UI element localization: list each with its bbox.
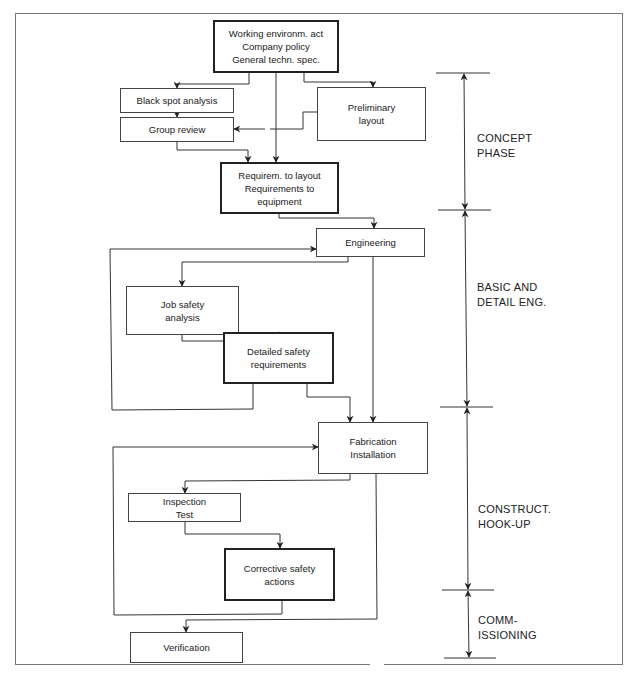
- phase-construct-line-1: CONSTRUCT.: [478, 502, 551, 517]
- node-preliminary-line-1: Preliminary: [348, 101, 396, 114]
- node-inspection-test: Inspection Test: [128, 493, 241, 522]
- node-fabrication-line-1: Fabrication: [350, 435, 397, 448]
- node-corrective-safety-actions: Corrective safety actions: [224, 548, 335, 601]
- node-job-safety-line-2: analysis: [165, 311, 199, 324]
- phase-basic-line-2: DETAIL ENG.: [477, 295, 546, 310]
- node-preliminary-line-2: layout: [359, 114, 384, 127]
- node-job-safety-line-1: Job safety: [161, 298, 204, 311]
- node-inputs-line-3: General techn. spec.: [232, 53, 320, 66]
- node-requirements: Requirem. to layout Requirements to equi…: [220, 162, 339, 214]
- phase-basic-line-1: BASIC AND: [477, 280, 546, 295]
- node-requirements-line-2: Requirements to: [245, 182, 315, 195]
- node-black-spot-analysis: Black spot analysis: [120, 88, 234, 113]
- node-inputs-line-2: Company policy: [242, 40, 310, 53]
- node-inspection-line-1: Inspection: [163, 495, 206, 508]
- phase-concept-line-2: PHASE: [477, 146, 532, 161]
- node-requirements-line-3: equipment: [257, 195, 301, 208]
- node-fabrication-line-2: Installation: [350, 448, 395, 461]
- node-preliminary-layout: Preliminary layout: [317, 87, 426, 141]
- phase-concept-line-1: CONCEPT: [477, 131, 532, 146]
- phase-label-concept: CONCEPT PHASE: [477, 131, 532, 161]
- node-inputs: Working environm. act Company policy Gen…: [213, 20, 339, 73]
- node-inputs-line-1: Working environm. act: [229, 27, 323, 40]
- node-group-review-label: Group review: [149, 123, 206, 136]
- node-verification: Verification: [130, 632, 243, 663]
- node-detailed-safety-line-1: Detailed safety: [247, 345, 310, 358]
- node-fabrication-installation: Fabrication Installation: [318, 422, 428, 474]
- node-requirements-line-1: Requirem. to layout: [238, 169, 320, 182]
- node-detailed-safety-requirements: Detailed safety requirements: [223, 332, 334, 384]
- node-group-review: Group review: [120, 117, 234, 142]
- node-corrective-line-2: actions: [264, 575, 294, 588]
- node-verification-label: Verification: [163, 641, 209, 654]
- phase-label-construct: CONSTRUCT. HOOK-UP: [478, 502, 551, 532]
- node-engineering: Engineering: [316, 228, 425, 257]
- node-corrective-line-1: Corrective safety: [244, 562, 315, 575]
- phase-label-commissioning: COMM- ISSIONING: [478, 613, 537, 643]
- phase-comm-line-1: COMM-: [478, 613, 537, 628]
- node-engineering-label: Engineering: [345, 236, 396, 249]
- node-detailed-safety-line-2: requirements: [251, 358, 306, 371]
- phase-comm-line-2: ISSIONING: [478, 628, 537, 643]
- phase-construct-line-2: HOOK-UP: [478, 517, 551, 532]
- phase-label-basic-detail: BASIC AND DETAIL ENG.: [477, 280, 546, 310]
- node-job-safety-analysis: Job safety analysis: [126, 286, 239, 335]
- node-inspection-line-2: Test: [176, 508, 193, 521]
- node-black-spot-label: Black spot analysis: [137, 94, 218, 107]
